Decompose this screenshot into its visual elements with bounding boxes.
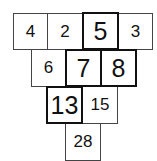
cell-r1-c4: 3 <box>118 13 153 50</box>
cell-r1-c3: 5 <box>82 12 119 50</box>
cell-r2-c3: 8 <box>100 49 137 87</box>
cell-r1-c2: 2 <box>47 13 83 50</box>
cell-r4-c1: 28 <box>65 123 101 161</box>
cell-r2-c1: 6 <box>31 49 66 87</box>
cell-r3-c2: 15 <box>82 86 118 124</box>
cell-r1-c1: 4 <box>13 13 48 50</box>
cell-r3-c1: 13 <box>46 86 83 124</box>
cell-r2-c2: 7 <box>65 49 102 87</box>
